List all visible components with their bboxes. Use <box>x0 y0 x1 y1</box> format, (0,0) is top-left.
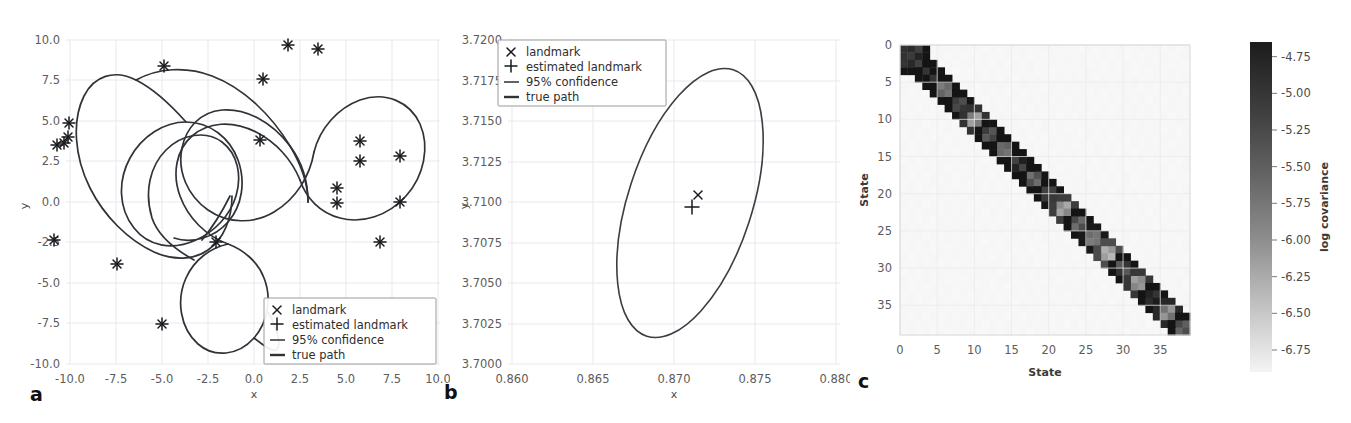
heatmap-cell <box>900 164 908 172</box>
heatmap-cell <box>989 253 997 261</box>
heatmap-cell <box>1041 186 1049 194</box>
heatmap-cell <box>959 186 967 194</box>
heatmap-cell <box>1026 52 1034 60</box>
heatmap-cell <box>1078 201 1086 209</box>
heatmap-cell <box>1175 142 1183 150</box>
heatmap-cell <box>907 276 915 284</box>
heatmap-cell <box>1116 261 1124 269</box>
heatmap-cell <box>1123 67 1131 75</box>
heatmap-cell <box>1064 179 1072 187</box>
heatmap-cell <box>1093 290 1101 298</box>
heatmap-cell <box>1064 194 1072 202</box>
heatmap-cell <box>1138 223 1146 231</box>
heatmap-cell <box>1101 104 1109 112</box>
heatmap-cell <box>1041 298 1049 306</box>
heatmap-cell <box>997 171 1005 179</box>
heatmap-cell <box>952 283 960 291</box>
heatmap-cell <box>959 149 967 157</box>
x-tick-label: 20 <box>1041 343 1056 357</box>
heatmap-cell <box>945 60 953 68</box>
heatmap-cell <box>907 67 915 75</box>
heatmap-cell <box>1093 179 1101 187</box>
y-tick-label: 3.7050 <box>462 276 502 290</box>
heatmap-cell <box>1086 276 1094 284</box>
heatmap-cell <box>1026 283 1034 291</box>
heatmap-cell <box>945 268 953 276</box>
heatmap-cell <box>974 216 982 224</box>
heatmap-cell <box>1153 261 1161 269</box>
heatmap-cell <box>1004 238 1012 246</box>
heatmap-cell <box>1012 82 1020 90</box>
landmark-marker <box>331 197 343 209</box>
heatmap-cell <box>1056 179 1064 187</box>
landmark-marker <box>63 117 75 129</box>
heatmap-cell <box>1153 82 1161 90</box>
heatmap-cell <box>982 276 990 284</box>
heatmap-cell <box>1160 127 1168 135</box>
heatmap-cell <box>1153 157 1161 165</box>
heatmap-cell <box>1153 97 1161 105</box>
heatmap-cell <box>907 290 915 298</box>
heatmap-cell <box>1116 328 1124 336</box>
heatmap-cell <box>1175 276 1183 284</box>
heatmap-cell <box>1064 157 1072 165</box>
heatmap-cell <box>930 134 938 142</box>
heatmap-cell <box>1041 112 1049 120</box>
heatmap-cell <box>930 194 938 202</box>
heatmap-cell <box>1093 104 1101 112</box>
heatmap-cell <box>1183 194 1191 202</box>
heatmap-cell <box>1101 75 1109 83</box>
heatmap-cell <box>952 82 960 90</box>
heatmap-cell <box>930 276 938 284</box>
heatmap-cell <box>907 216 915 224</box>
heatmap-cell <box>945 52 953 60</box>
heatmap-cell <box>1108 320 1116 328</box>
heatmap-cell <box>1183 201 1191 209</box>
heatmap-cell <box>1145 320 1153 328</box>
heatmap-cell <box>967 276 975 284</box>
heatmap-cell <box>1064 52 1072 60</box>
heatmap-cell <box>1123 52 1131 60</box>
heatmap-cell <box>967 290 975 298</box>
heatmap-cell <box>1093 97 1101 105</box>
heatmap-cell <box>1108 149 1116 157</box>
heatmap-cell <box>1138 157 1146 165</box>
heatmap-cell <box>997 134 1005 142</box>
heatmap-cell <box>1041 60 1049 68</box>
heatmap-cell <box>945 97 953 105</box>
heatmap-cell <box>1108 209 1116 217</box>
heatmap-cell <box>1064 290 1072 298</box>
heatmap-cell <box>1049 157 1057 165</box>
panel-b-legend[interactable]: landmark estimated landmark 95% confiden… <box>498 40 666 106</box>
heatmap-cell <box>945 201 953 209</box>
panel-a-legend[interactable]: landmark estimated landmark 95% confiden… <box>264 298 436 364</box>
heatmap-cell <box>930 97 938 105</box>
heatmap-cell <box>952 67 960 75</box>
heatmap-cell <box>982 253 990 261</box>
heatmap-cell <box>1153 268 1161 276</box>
heatmap-cell <box>1101 157 1109 165</box>
heatmap-cell <box>1153 112 1161 120</box>
heatmap-cell <box>1138 171 1146 179</box>
heatmap-cell <box>1160 290 1168 298</box>
heatmap-cell <box>959 134 967 142</box>
heatmap-cell <box>952 223 960 231</box>
heatmap-cell <box>1004 45 1012 53</box>
heatmap-cell <box>1078 179 1086 187</box>
heatmap-cell <box>907 209 915 217</box>
heatmap-cell <box>1049 104 1057 112</box>
heatmap-cell <box>1175 164 1183 172</box>
heatmap-cell <box>1041 194 1049 202</box>
heatmap-cell <box>982 171 990 179</box>
heatmap-cell <box>1175 127 1183 135</box>
heatmap-cell <box>997 104 1005 112</box>
heatmap-cell <box>1145 194 1153 202</box>
heatmap-cell <box>1086 112 1094 120</box>
heatmap-cell <box>1049 97 1057 105</box>
heatmap-cell <box>1116 194 1124 202</box>
heatmap-cell <box>967 201 975 209</box>
y-tick-label: 0 <box>885 38 892 52</box>
heatmap-cell <box>952 216 960 224</box>
heatmap-cell <box>1012 149 1020 157</box>
y-tick-label: 5 <box>885 75 892 89</box>
